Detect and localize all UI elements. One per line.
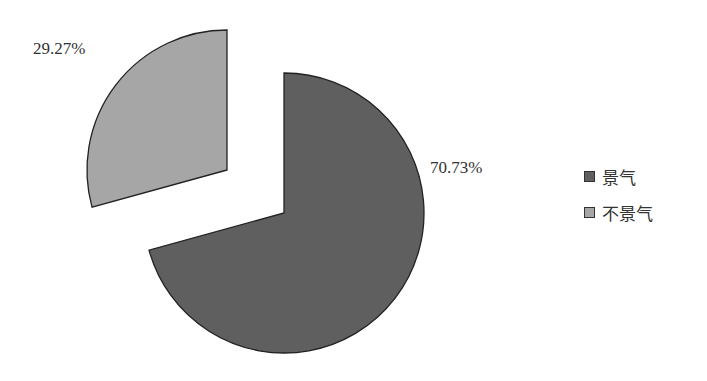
data-label-jingqi: 70.73%: [430, 158, 482, 177]
legend-item-jingqi: 景气: [584, 164, 653, 188]
data-label-bujingqi: 29.27%: [33, 39, 85, 58]
legend-label: 景气: [602, 164, 636, 189]
legend: 景气 不景气: [584, 164, 653, 236]
legend-swatch-icon: [584, 207, 595, 218]
legend-swatch-icon: [584, 171, 595, 182]
legend-label: 不景气: [602, 200, 653, 225]
legend-item-bujingqi: 不景气: [584, 200, 653, 224]
pie-slice-bujingqi: [87, 30, 227, 207]
